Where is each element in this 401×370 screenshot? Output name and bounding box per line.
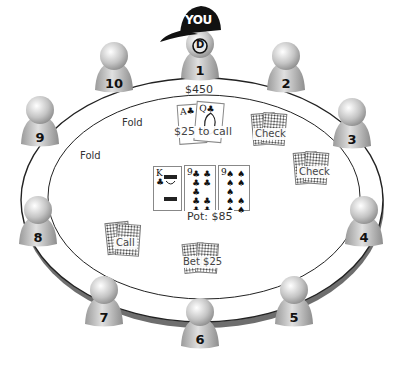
board-card-nine-spades: 9 ♠♠♠♠♠♠♠♠♠ (218, 165, 250, 211)
seat-2-number[interactable]: 2 (266, 76, 306, 91)
seat-6-number[interactable]: 6 (180, 332, 220, 347)
seat-4-number[interactable]: 4 (344, 230, 384, 245)
seat-3-action: Check (297, 166, 332, 178)
seat-10-action: Fold (122, 117, 143, 128)
seat-1-number[interactable]: 1 (180, 63, 220, 78)
pot-label: Pot: $85 (185, 210, 234, 223)
spade-pips-icon: ♠♠♠♠♠♠♠♠♠ (226, 170, 248, 215)
dealer-button-label: D (196, 39, 204, 50)
seat-6-action: Bet $25 (181, 256, 224, 268)
board-card-nine-clubs: 9 ♣♣♣♣♣♣♣♣♣ (184, 165, 216, 211)
king-portrait-icon (163, 173, 179, 205)
club-pips-icon: ♣♣♣♣♣♣♣♣♣ (192, 170, 214, 215)
board-card-king-clubs: K ♣ (153, 166, 182, 211)
seat-7-number[interactable]: 7 (84, 310, 124, 325)
seat-10-number[interactable]: 10 (94, 76, 134, 91)
seat-9-number[interactable]: 9 (20, 130, 60, 145)
seat-3-number[interactable]: 3 (332, 132, 372, 147)
poker-table-diagram: YOU D 1 2 3 4 5 6 7 8 9 10 $450 A♣ Q♣ $2… (0, 0, 401, 370)
hero-stack: $450 (185, 83, 213, 96)
seat-8-action: Call (114, 237, 137, 249)
seat-5-number[interactable]: 5 (274, 310, 314, 325)
hero-action-label: $25 to call (172, 126, 234, 138)
seat-2-action: Check (253, 128, 288, 140)
you-cap-text: YOU (185, 13, 212, 27)
seat-9-action: Fold (80, 150, 101, 161)
seat-8-number[interactable]: 8 (18, 230, 58, 245)
